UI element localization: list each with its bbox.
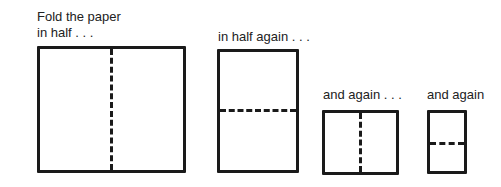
- paper-quarter-sheet: [322, 110, 399, 175]
- paper-half-sheet: [217, 49, 299, 173]
- step-4-caption: and again: [427, 87, 484, 102]
- vertical-fold-line: [110, 49, 113, 170]
- step-3-caption: and again . . .: [323, 87, 402, 102]
- step-1-caption-line-1: Fold the paper: [37, 9, 121, 24]
- step-2-caption: in half again . . .: [218, 29, 310, 44]
- horizontal-fold-line: [220, 109, 296, 112]
- step-1-caption-line-2: in half . . .: [37, 25, 93, 40]
- horizontal-fold-line: [430, 142, 464, 145]
- paper-full-sheet: [37, 46, 186, 173]
- vertical-fold-line: [359, 113, 362, 172]
- paper-eighth-sheet: [427, 110, 467, 174]
